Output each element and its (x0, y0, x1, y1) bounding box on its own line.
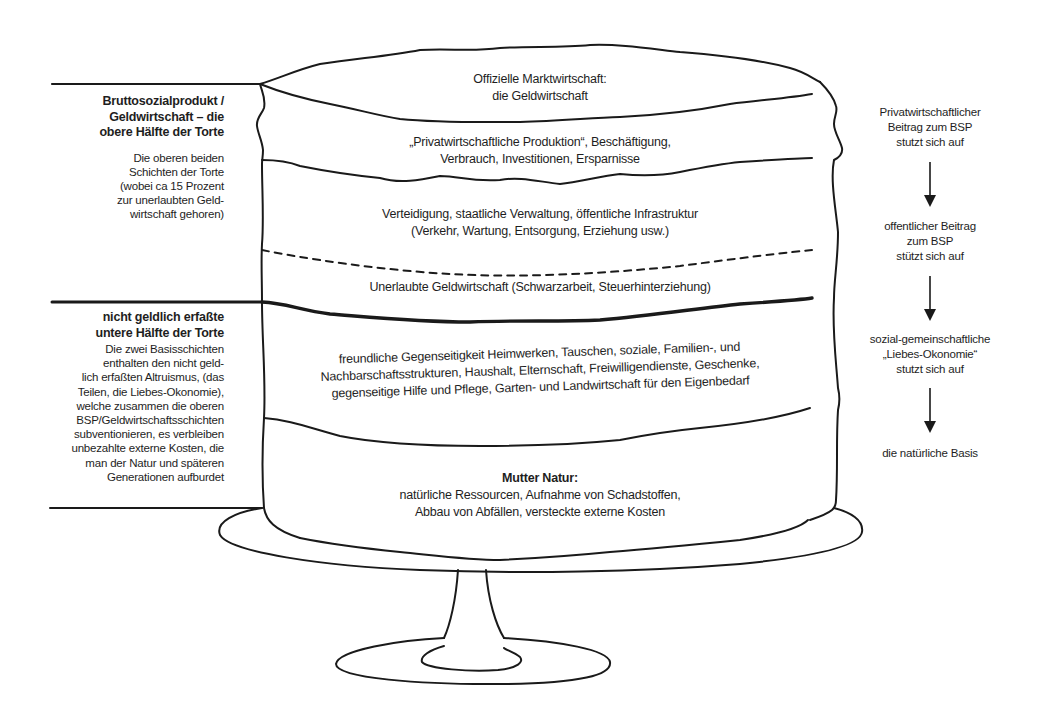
layer-mother-nature: Mutter Natur: natürliche Ressourcen, Auf… (330, 470, 750, 521)
layer-text-line: die Geldwirtschaft (390, 88, 690, 105)
cake-left-wall (257, 84, 300, 538)
body-line: Generationen aufburdet (30, 470, 224, 484)
body-line: wirtschaft gehoren) (30, 207, 224, 221)
body-line: subventionieren, es verbleiben (30, 427, 224, 441)
layer-text-line: (Verkehr, Wartung, Entsorgung, Erziehung… (320, 223, 760, 240)
body-line: BSP/Geldwirtschaftsschichten (30, 413, 224, 427)
body-line: Teilen, die Liebes-Okonomie), (30, 385, 224, 399)
annotation-body: Die oberen beiden Schichten der Torte (w… (30, 151, 224, 222)
flow-line: stutzt sich auf (850, 135, 1010, 150)
layer-illegal-economy: Unerlaubte Geldwirtschaft (Schwarzarbeit… (310, 279, 770, 296)
flow-line: „Liebes-Okonomie“ (850, 347, 1010, 362)
layer-text-line: natürliche Ressourcen, Aufnahme von Scha… (330, 487, 750, 504)
body-line: Schichten der Torte (30, 165, 224, 179)
flow-line: offentlicher Beitrag (850, 219, 1010, 234)
dashed-layer-line (262, 250, 812, 276)
arrow-down-icon (923, 276, 937, 322)
flow-line: stützt sich auf (850, 249, 1010, 264)
body-line: zur unerlaubten Geld- (30, 193, 224, 207)
flow-line: die natürliche Basis (850, 446, 1010, 461)
body-line: Die zwei Basisschichten (30, 342, 224, 356)
cake-stand-stem (444, 570, 504, 638)
heading-line: Geldwirtschaft – die (30, 110, 224, 126)
annotation-heading: Bruttosozialprodukt / Geldwirtschaft – d… (30, 94, 224, 141)
layer-public-sector: Verteidigung, staatliche Verwaltung, öff… (320, 206, 760, 240)
left-annotation-lower: nicht geldlich erfaßte untere Hälfte der… (30, 310, 224, 484)
layer-text-line: Unerlaubte Geldwirtschaft (Schwarzarbeit… (310, 279, 770, 296)
layer-official-market: Offizielle Marktwirtschaft: die Geldwirt… (390, 71, 690, 105)
cake-right-wall (810, 82, 842, 520)
cake-stand-foot-inner (422, 646, 521, 671)
body-line: welche zusammen die oberen (30, 399, 224, 413)
layer-text-line: Verteidigung, staatliche Verwaltung, öff… (320, 206, 760, 223)
flow-line: Beitrag zum BSP (850, 120, 1010, 135)
cake-stand-foot (336, 638, 610, 684)
body-line: enthalten den nicht geld- (30, 356, 224, 370)
annotation-body: Die zwei Basisschichten enthalten den ni… (30, 342, 224, 484)
flow-step-private: Privatwirtschaftlicher Beitrag zum BSP s… (850, 105, 1010, 150)
layer-heading: Mutter Natur: (330, 470, 750, 487)
layer-private-production: „Privatwirtschaftliche Produktion“, Besc… (340, 134, 740, 168)
heading-line: untere Hälfte der Torte (30, 326, 224, 342)
flow-line: zum BSP (850, 234, 1010, 249)
heading-line: Bruttosozialprodukt / (30, 94, 224, 110)
flow-line: sozial-gemeinschaftliche (850, 332, 1010, 347)
layer-text-line: Offizielle Marktwirtschaft: (390, 71, 690, 88)
layer-line-4 (264, 408, 810, 446)
flow-step-public: offentlicher Beitrag zum BSP stützt sich… (850, 219, 1010, 264)
flow-step-nature: die natürliche Basis (850, 446, 1010, 461)
body-line: lich erfaßten Altruismus, (das (30, 370, 224, 384)
body-line: man der Natur und späteren (30, 456, 224, 470)
arrow-down-icon (923, 162, 937, 208)
heading-line: obere Hälfte der Torte (30, 125, 224, 141)
annotation-heading: nicht geldlich erfaßte untere Hälfte der… (30, 310, 224, 341)
layer-text-line: Verbrauch, Investitionen, Ersparnisse (340, 151, 740, 168)
layer-line-3-thick (262, 298, 812, 322)
cake-bottom-edge (300, 520, 808, 560)
layer-text-line: „Privatwirtschaftliche Produktion“, Besc… (340, 134, 740, 151)
body-line: unbezahlte externe Kosten, die (30, 441, 224, 455)
body-line: (wobei ca 15 Prozent (30, 179, 224, 193)
flow-step-love-economy: sozial-gemeinschaftliche „Liebes-Okonomi… (850, 332, 1010, 377)
flow-line: stutzt sich auf (850, 362, 1010, 377)
arrow-down-icon (923, 388, 937, 434)
layer-text-line: Abbau von Abfällen, versteckte externe K… (330, 504, 750, 521)
heading-line: nicht geldlich erfaßte (30, 310, 224, 326)
flow-line: Privatwirtschaftlicher (850, 105, 1010, 120)
body-line: Die oberen beiden (30, 151, 224, 165)
left-annotation-upper: Bruttosozialprodukt / Geldwirtschaft – d… (30, 94, 224, 222)
